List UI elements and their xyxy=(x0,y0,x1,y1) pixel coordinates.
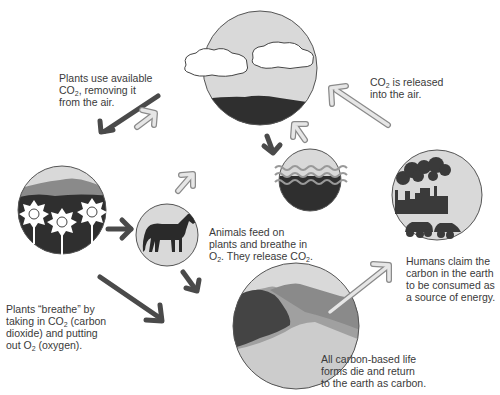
label-line: O2. They release CO2. xyxy=(209,250,313,262)
label-co2-released: CO2 is released into the air. xyxy=(370,76,443,100)
humans-node xyxy=(392,150,482,240)
label-line: plants and breathe in xyxy=(209,238,313,250)
label-line: Plants use available xyxy=(59,72,152,84)
label-line: a source of energy. xyxy=(406,291,495,303)
label-line: carbon in the earth xyxy=(406,267,495,279)
ocean-node xyxy=(275,149,347,216)
label-line: out O2 (oxygen). xyxy=(6,339,106,351)
label-line: CO2, removing it xyxy=(59,84,152,96)
label-line: Plants “breathe” by xyxy=(6,303,106,315)
label-line: from the air. xyxy=(59,96,152,108)
label-line: to be consumed as xyxy=(406,279,495,291)
label-line: to the earth as carbon. xyxy=(321,377,426,389)
label-plants-use-co2: Plants use available CO2, removing it fr… xyxy=(59,72,152,108)
label-carbon-life-return: All carbon-based life forms die and retu… xyxy=(321,353,426,389)
label-humans-claim: Humans claim the carbon in the earth to … xyxy=(406,255,495,303)
label-line: Animals feed on xyxy=(209,226,313,238)
label-line: Humans claim the xyxy=(406,255,495,267)
label-line: dioxide) and putting xyxy=(6,327,106,339)
label-plants-breathe: Plants “breathe” by taking in CO2 (carbo… xyxy=(6,303,106,351)
plants-node xyxy=(15,166,110,260)
label-line: into the air. xyxy=(370,88,443,100)
atmosphere-node xyxy=(185,11,320,130)
animals-node xyxy=(136,204,198,266)
label-line: CO2 is released xyxy=(370,76,443,88)
label-animals-feed: Animals feed on plants and breathe in O2… xyxy=(209,226,313,262)
label-line: forms die and return xyxy=(321,365,426,377)
label-line: All carbon-based life xyxy=(321,353,426,365)
label-line: taking in CO2 (carbon xyxy=(6,315,106,327)
